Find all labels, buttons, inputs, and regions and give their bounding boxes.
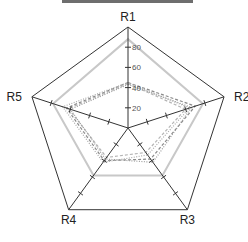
- tick-label: 40: [132, 84, 141, 93]
- series-line-2: [67, 83, 196, 161]
- tick-label: 80: [132, 43, 141, 52]
- tick-label: 60: [132, 63, 141, 72]
- radar-chart: R1R2R3R4R520406080: [0, 0, 248, 242]
- axis-label-r1: R1: [120, 10, 136, 24]
- tick-label: 20: [132, 104, 141, 113]
- series-line-4: [68, 84, 185, 158]
- label-layer: R1R2R3R4R520406080: [7, 10, 248, 227]
- axis-label-r5: R5: [7, 90, 23, 104]
- tick-mark: [173, 192, 178, 196]
- series-line-3: [63, 83, 190, 163]
- tick-mark: [114, 143, 119, 147]
- tick-mark: [78, 192, 83, 196]
- tick-mark: [137, 143, 142, 147]
- axis-label-r4: R4: [61, 213, 77, 227]
- axis-label-r2: R2: [234, 90, 248, 104]
- axis-r4: [69, 128, 128, 210]
- axis-r3: [128, 128, 187, 210]
- axis-label-r3: R3: [180, 213, 196, 227]
